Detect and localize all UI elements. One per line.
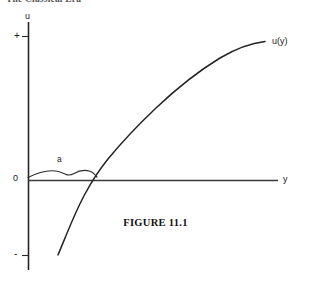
axis-label-y: y [283,175,288,184]
figure-page: The Classical Era u + 0 - y u(y) a FIGUR… [0,0,311,283]
curve-label-a: a [57,155,62,164]
small-ripple-curve [28,171,97,178]
tick-label-zero: 0 [13,174,18,183]
figure-caption: FIGURE 11.1 [0,217,311,228]
tick-label-positive: + [14,31,20,41]
curve-label-uy: u(y) [272,37,288,46]
plot-canvas [0,0,311,283]
tick-label-negative: - [14,249,17,259]
axis-label-u: u [25,12,30,21]
